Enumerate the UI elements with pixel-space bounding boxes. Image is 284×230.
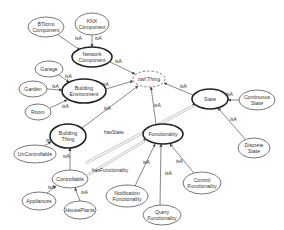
node-label: Component <box>79 57 106 63</box>
node-label: Component <box>33 27 60 33</box>
node-label: Functionality <box>187 183 217 189</box>
node-label: State <box>248 148 260 154</box>
isa-edge-notification-to-functionality: isA <box>135 144 155 186</box>
node-houseplants: HousePlants <box>64 201 96 219</box>
edge-label: isA <box>81 189 89 195</box>
isa-edge-query-to-functionality: isA <box>160 144 173 205</box>
isa-edge-discrete-to-state: isA <box>218 108 245 139</box>
node-label: Thing <box>62 136 75 142</box>
node-label: Controllable <box>56 176 84 182</box>
node-network: NetworkComponent <box>72 47 112 67</box>
node-notification: NotificationFunctionality <box>106 185 148 207</box>
node-label: State <box>204 96 216 102</box>
edge-label: isA <box>65 73 73 79</box>
relation-hasFunctionality: hasFunctionality <box>87 139 146 176</box>
node-garage: Garage <box>35 61 63 77</box>
node-bticino: BTicinoComponent <box>28 17 64 37</box>
relation-label: hasState <box>104 129 124 135</box>
isa-edge-network-to-owlthing: isA <box>110 58 135 74</box>
edge-label: isA <box>63 153 71 159</box>
node-buildingenv: BuildingEnvironment <box>62 79 106 103</box>
relation-label: hasFunctionality <box>92 167 129 173</box>
node-label: Component <box>79 24 106 30</box>
node-label: Functionality <box>148 131 178 137</box>
node-label: Environment <box>69 91 99 97</box>
node-label: owl:Thing <box>138 76 160 82</box>
edge-line <box>135 144 155 186</box>
node-label: UnControllable <box>18 151 52 157</box>
edge-label: isA <box>52 83 60 89</box>
isa-edge-knx-to-network: isA <box>92 35 103 47</box>
edge-label: isA <box>115 58 123 64</box>
edge-label: isA <box>62 103 70 109</box>
isa-edge-appliances-to-controllable: isA <box>47 184 56 193</box>
node-continuous: ContinuousState <box>239 90 275 110</box>
isa-edge-room-to-buildingenv: isA <box>50 100 70 109</box>
edge-label: isA <box>95 35 103 41</box>
edge-line <box>106 81 133 89</box>
node-controllable: Controllable <box>52 170 88 188</box>
edge-label: isA <box>48 184 56 190</box>
edge-line <box>47 89 62 90</box>
isa-edge-functionality-to-owlthing: isA <box>151 87 162 124</box>
edge-line <box>218 108 245 139</box>
node-garden: Garden <box>19 81 47 97</box>
node-owlthing: owl:Thing <box>133 71 165 87</box>
node-label: Appliances <box>26 198 52 204</box>
node-uncontrollable: UnControllable <box>14 145 56 163</box>
node-label: State <box>251 100 263 106</box>
ontology-diagram: isAisAisAisAisAisAisAisAisAisAisAisAisAi… <box>0 0 284 230</box>
edge-label: isA <box>104 105 112 111</box>
node-label: Room <box>31 109 45 115</box>
node-label: Functionality <box>147 215 177 221</box>
node-room: Room <box>25 104 51 120</box>
edge-label: isA <box>75 35 83 41</box>
isa-edge-buildingenv-to-owlthing: isA <box>102 81 133 89</box>
node-label: Garage <box>40 66 57 72</box>
isa-edge-garden-to-buildingenv: isA <box>47 83 62 90</box>
isa-edge-state-to-owlthing: isA <box>164 83 193 95</box>
node-query: QueryFunctionality <box>143 205 181 225</box>
isa-edge-houseplants-to-controllable: isA <box>75 188 89 201</box>
node-knx: KNXComponent <box>75 13 109 35</box>
node-discrete: DiscreteState <box>238 138 270 158</box>
edge-label: isA <box>143 159 151 165</box>
node-state: State <box>192 89 228 109</box>
edge-label: isA <box>165 170 173 176</box>
node-functionality: Functionality <box>143 124 183 144</box>
node-label: HousePlants <box>65 207 95 213</box>
isa-edge-bticino-to-network: isA <box>58 35 83 50</box>
node-label: Functionality <box>112 196 142 202</box>
edge-line <box>75 188 80 201</box>
edge-label: isA <box>176 158 184 164</box>
node-label: Garden <box>24 86 41 92</box>
edge-line <box>164 83 193 95</box>
edge-line <box>110 62 135 74</box>
node-control: ControlFunctionality <box>183 172 221 194</box>
node-buildingthing: BuildingThing <box>50 124 86 148</box>
edge-label: isA <box>180 83 188 89</box>
isa-edge-control-to-functionality: isA <box>170 144 194 173</box>
edge-line <box>160 144 161 205</box>
edge-label: isA <box>154 102 162 108</box>
node-appliances: Appliances <box>22 192 56 210</box>
isa-edge-controllable-to-buildingthing: isA <box>63 148 71 170</box>
edge-label: isA <box>230 116 238 122</box>
